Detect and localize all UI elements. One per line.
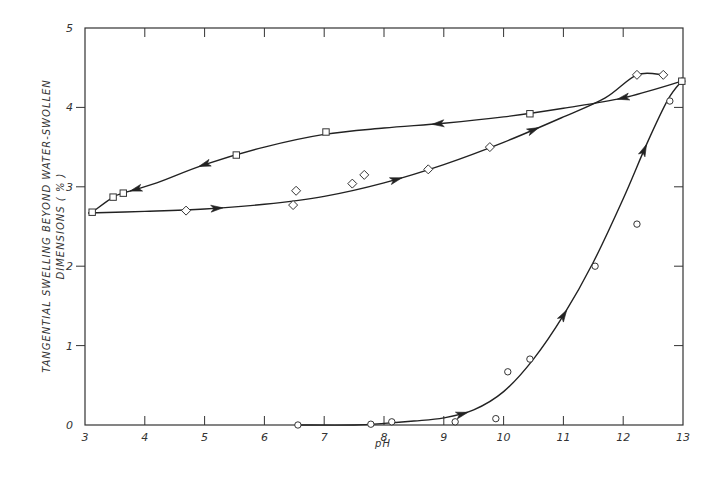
ticks	[76, 28, 683, 425]
x-tick-label: 3	[82, 431, 89, 444]
square-point	[110, 194, 116, 200]
diamond-point	[292, 186, 301, 195]
circles-curve	[298, 80, 683, 426]
circle-point	[295, 422, 301, 428]
squares-arrow	[198, 159, 212, 169]
squares-curve	[92, 81, 682, 212]
x-tick-label: 11	[556, 431, 570, 444]
square-point	[120, 190, 126, 196]
circles-arrow	[639, 143, 650, 157]
circle-point	[667, 98, 673, 104]
x-tick-label: 9	[440, 431, 447, 444]
circle-point	[527, 356, 533, 362]
diamond-point	[659, 70, 668, 79]
square-point	[89, 209, 95, 215]
x-tick-label: 5	[201, 431, 208, 444]
y-axis-title-line1: TANGENTIAL SWELLING BEYOND WATER-SWOLLEN	[41, 79, 52, 373]
diamond-point	[632, 70, 641, 79]
markers	[89, 70, 685, 428]
diamond-point	[348, 179, 357, 188]
x-tick-label: 7	[321, 431, 328, 444]
squares-arrow	[129, 184, 142, 194]
diamonds-curve	[88, 73, 663, 213]
y-tick-label: 0	[66, 419, 73, 432]
circle-point	[592, 263, 598, 269]
x-tick-label: 6	[261, 431, 268, 444]
circle-point	[452, 419, 458, 425]
y-tick-label: 3	[66, 181, 73, 194]
y-tick-label: 2	[66, 260, 73, 273]
circle-point	[493, 415, 499, 421]
circle-point	[634, 221, 640, 227]
circle-point	[505, 369, 511, 375]
diamond-point	[360, 170, 369, 179]
x-tick-label: 10	[497, 431, 511, 444]
axes	[85, 28, 683, 425]
curves	[88, 73, 683, 425]
y-tick-label: 1	[66, 340, 73, 353]
x-axis-title: pH	[374, 438, 391, 449]
diamond-point	[424, 165, 433, 174]
square-point	[323, 129, 329, 135]
square-point	[233, 152, 239, 158]
y-tick-label: 5	[66, 22, 73, 35]
diamond-point	[182, 206, 191, 215]
x-tick-label: 12	[616, 431, 630, 444]
y-tick-label: 4	[66, 101, 73, 114]
circle-point	[368, 421, 374, 427]
x-tick-label: 4	[141, 431, 148, 444]
y-axis-title-line2: DIMENSIONS ( % )	[55, 173, 66, 280]
arrows	[129, 93, 650, 419]
circles-arrow	[455, 409, 468, 419]
chart-canvas: 345678910111213012345 pH TANGENTIAL SWEL…	[0, 0, 720, 484]
square-point	[679, 78, 685, 84]
square-point	[527, 111, 533, 117]
circle-point	[389, 419, 395, 425]
circles-arrow	[557, 308, 569, 322]
tick-labels: 345678910111213012345	[66, 22, 690, 444]
plot-frame	[85, 28, 683, 425]
squares-arrow	[617, 93, 630, 102]
diamonds-arrow	[527, 124, 541, 135]
diamond-point	[485, 143, 494, 152]
diamonds-arrow	[389, 174, 402, 184]
x-tick-label: 13	[676, 431, 690, 444]
